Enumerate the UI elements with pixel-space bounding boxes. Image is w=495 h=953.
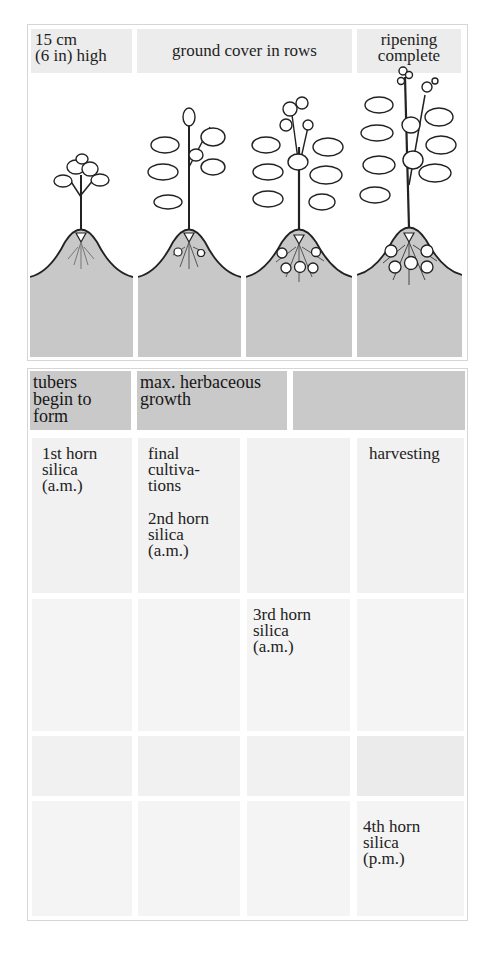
stage-label-height: 15 cm (6 in) high <box>31 29 132 73</box>
task-cell-4th-horn-silica: 4th horn silica (p.m.) <box>357 801 464 916</box>
task-cell-empty <box>32 599 132 731</box>
task-line: (a.m.) <box>42 478 122 494</box>
task-cell-empty <box>357 736 464 796</box>
potato-plant-stage-3-flowering-illustration <box>246 87 352 357</box>
stage-label-ground-cover: ground cover in rows <box>137 29 352 73</box>
growth-stages-panel: 15 cm (6 in) high ground cover in rows r… <box>27 24 468 361</box>
task-cell-empty <box>138 736 240 796</box>
phase-header-tubers-begin: tubers begin to form <box>30 371 131 430</box>
task-cell-empty <box>32 801 132 916</box>
task-cell-harvesting: harvesting <box>357 438 464 593</box>
task-cell-empty <box>247 438 350 593</box>
label-text: ground cover in rows <box>172 41 317 60</box>
task-cell-cultivations-2nd-silica: final cultiva- tions 2nd horn silica (a.… <box>138 438 240 593</box>
task-line: harvesting <box>369 446 454 462</box>
header-line: growth <box>140 391 284 408</box>
task-line: (a.m.) <box>253 639 340 655</box>
task-line: (a.m.) <box>148 543 230 559</box>
task-cell-empty <box>247 736 350 796</box>
potato-plant-stage-1-illustration <box>30 147 133 357</box>
task-cell-3rd-horn-silica: 3rd horn silica (a.m.) <box>247 599 350 731</box>
task-cell-empty <box>138 599 240 731</box>
phase-header-blank <box>293 371 465 430</box>
task-cell-empty <box>357 599 464 731</box>
task-cell-empty <box>247 801 350 916</box>
task-line: tions <box>148 478 230 494</box>
label-line: (6 in) high <box>35 48 128 64</box>
header-line: form <box>33 408 128 425</box>
task-cell-empty <box>32 736 132 796</box>
potato-plant-stage-4-mature-illustration <box>357 65 462 357</box>
tasks-schedule-panel: tubers begin to form max. herbaceous gro… <box>27 368 468 921</box>
phase-header-max-growth: max. herbaceous growth <box>137 371 287 430</box>
label-line: complete <box>361 48 457 64</box>
task-cell-empty <box>138 801 240 916</box>
task-cell-1st-horn-silica: 1st horn silica (a.m.) <box>32 438 132 593</box>
potato-plant-stage-2-illustration <box>138 107 241 357</box>
task-line: (p.m.) <box>363 851 454 867</box>
